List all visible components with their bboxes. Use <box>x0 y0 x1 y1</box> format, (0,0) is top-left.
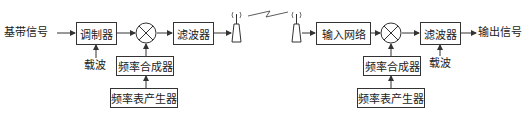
modulator-block: 调制器 <box>76 22 117 45</box>
tx-antenna-icon <box>232 24 241 42</box>
rx-antenna-icon <box>292 24 301 42</box>
output-signal-label: 输出信号 <box>478 26 522 40</box>
carrier-label-rx: 载波 <box>429 57 451 71</box>
filter-block-rx: 滤波器 <box>420 22 461 45</box>
freq-table-generator-block-tx: 频率表产生器 <box>110 88 178 108</box>
wireless-link-icon <box>248 11 288 17</box>
synthesizer-block-tx: 频率合成器 <box>116 56 174 76</box>
synthesizer-block-rx: 频率合成器 <box>363 56 421 76</box>
input-network-block: 输入网络 <box>316 22 371 45</box>
filter-block-tx: 滤波器 <box>173 22 214 45</box>
baseband-input-label: 基带信号 <box>4 26 48 40</box>
carrier-label-tx: 载波 <box>84 59 106 73</box>
freq-table-generator-block-rx: 频率表产生器 <box>357 88 425 108</box>
